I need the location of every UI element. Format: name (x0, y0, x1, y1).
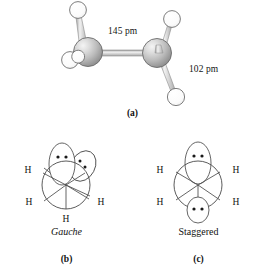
hydrogen-label-bottom: H (63, 214, 70, 224)
hydrogen-sphere-top-right (164, 11, 181, 28)
lone-pair-dot-back-1 (79, 160, 82, 163)
hydrogen-label-upper-left: H (25, 165, 32, 175)
hydrazine-conformations-figure: 145 pm 102 pm (a) H (0, 0, 265, 279)
lone-pair-dot-back-2 (84, 166, 87, 169)
hydrogen-sphere-front-lower (72, 50, 85, 63)
bond-length-label-n-h: 102 pm (189, 64, 218, 74)
lone-pair-lobe-bottom (187, 197, 209, 223)
hydrogen-label-lower-left: H (157, 197, 164, 207)
lone-pair-dot-top-2 (200, 154, 203, 157)
hydrogen-label-lower-left: H (26, 197, 33, 207)
panel-a-caption: (a) (0, 108, 265, 118)
panel-c-caption: (c) (132, 254, 265, 264)
lone-pair-dot-top-1 (192, 154, 195, 157)
hydrogen-label-upper-left: H (157, 165, 164, 175)
bond-length-label-n-n: 145 pm (108, 26, 137, 36)
conformation-name-staggered: Staggered (132, 226, 265, 237)
lone-pair-lobe-front (49, 143, 75, 185)
hydrogen-label-lower-right: H (98, 197, 105, 207)
lone-pair-dot-bottom-1 (192, 207, 195, 210)
hydrogen-sphere-bottom-right (167, 88, 184, 105)
bond-front-lower-right (66, 185, 89, 199)
bond-back-lower-right (66, 185, 90, 196)
lone-pair-dot-front-1 (56, 155, 59, 158)
newman-projection-staggered: H H H H (132, 138, 265, 226)
bond-front-lower-left (44, 185, 66, 201)
hydrogen-label-upper-right: H (233, 165, 240, 175)
hydrogen-sphere-top-left (70, 2, 87, 19)
panel-a-ball-and-stick: 145 pm 102 pm (a) (0, 0, 265, 132)
lone-pair-dot-bottom-2 (200, 207, 203, 210)
lone-pair-dot-front-2 (64, 155, 67, 158)
panel-c-staggered: H H H H Staggered (c) (132, 138, 265, 279)
newman-projection-gauche: H H H H (0, 138, 133, 226)
hydrogen-label-lower-right: H (233, 197, 240, 207)
panel-b-gauche: H H H H Gauche (b) (0, 138, 133, 279)
conformation-name-gauche: Gauche (0, 226, 133, 237)
panel-b-caption: (b) (0, 254, 133, 264)
